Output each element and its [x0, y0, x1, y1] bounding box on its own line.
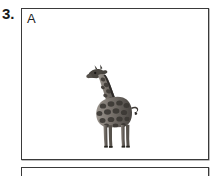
worksheet-item: 3. A — [0, 0, 219, 176]
panel-label-a: A — [27, 12, 36, 25]
giraffe-icon — [82, 61, 142, 149]
answer-panel-b[interactable] — [21, 167, 209, 176]
item-number: 3. — [2, 6, 14, 21]
answer-panel-a[interactable]: A — [21, 8, 209, 160]
